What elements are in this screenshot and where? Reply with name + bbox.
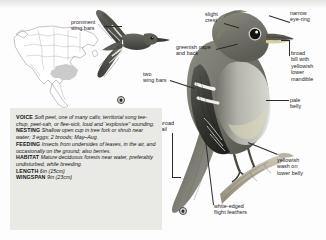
leader-prominent-wing-bars bbox=[104, 26, 122, 27]
badge-glyph bbox=[119, 98, 122, 101]
fact-length: LENGTH 6in (15cm) bbox=[16, 168, 156, 175]
annotation-white-edged-flight-feathers: white-edged flight feathers bbox=[214, 203, 274, 216]
north-america-range-map bbox=[8, 22, 104, 110]
fact-voice: VOICE Soft peet, one of many calls; terr… bbox=[16, 114, 156, 127]
annotation-pale-belly: pale belly bbox=[290, 97, 318, 110]
annotation-two-wing-bars: two wing bars bbox=[143, 71, 173, 84]
leader-broad-tail bbox=[172, 133, 173, 177]
fact-voice-label: VOICE bbox=[16, 114, 33, 120]
fact-wingspan-label: WINGSPAN bbox=[16, 174, 46, 180]
perched-figure-badge bbox=[179, 207, 187, 215]
flight-figure-badge bbox=[117, 96, 125, 104]
fact-habitat: HABITAT Mature deciduous forests near wa… bbox=[16, 154, 156, 167]
annotation-broad-tail: broad tail bbox=[160, 120, 184, 133]
field-guide-plate: prominent wing bars slight crest narrow … bbox=[0, 0, 326, 240]
fact-voice-text: Soft peet, one of many calls; territoria… bbox=[16, 114, 154, 127]
leader-broad-tail-tip bbox=[172, 177, 181, 178]
badge-glyph bbox=[181, 209, 184, 212]
annotation-yellowish-wash: yellowish wash on lower belly bbox=[277, 157, 321, 176]
leader-pale-belly bbox=[266, 100, 289, 101]
fact-wingspan-text: 9in (23cm) bbox=[47, 174, 72, 180]
fact-nesting-label: NESTING bbox=[16, 127, 40, 133]
facts-panel: VOICE Soft peet, one of many calls; terr… bbox=[10, 108, 162, 230]
fact-length-label: LENGTH bbox=[16, 168, 38, 174]
leader-broad-bill bbox=[289, 40, 290, 56]
annotation-slight-crest: slight crest bbox=[205, 11, 231, 24]
fact-length-text: 6in (15cm) bbox=[40, 168, 65, 174]
fact-feeding-label: FEEDING bbox=[16, 141, 40, 147]
annotation-broad-bill: broad bill with yellowish lower mandible bbox=[291, 50, 325, 82]
leader-broad-bill-tip bbox=[281, 40, 290, 41]
fact-wingspan: WINGSPAN 9in (23cm) bbox=[16, 174, 156, 181]
annotation-narrow-eye-ring: narrow eye-ring bbox=[290, 10, 324, 23]
fact-habitat-label: HABITAT bbox=[16, 154, 39, 160]
fact-feeding: FEEDING Insects from undersides of leave… bbox=[16, 141, 156, 154]
annotation-greenish-nape-and-back: greenish nape and back bbox=[176, 44, 222, 57]
fact-nesting: NESTING Shallow open cup in tree fork or… bbox=[16, 127, 156, 140]
